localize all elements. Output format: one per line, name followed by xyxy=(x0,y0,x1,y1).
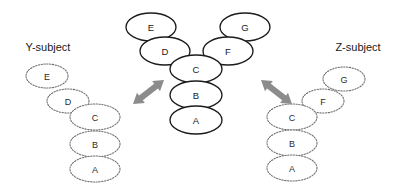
center-subject-group: EDGFCBA xyxy=(126,13,270,134)
left-subject-node-b: B xyxy=(70,131,120,157)
center-subject-node-label: F xyxy=(225,46,231,57)
left-subject-node-label: E xyxy=(44,72,50,82)
right-subject-node-label: A xyxy=(289,164,295,174)
right-subject-node-label: C xyxy=(289,113,296,123)
center-subject-node-label: A xyxy=(193,115,200,126)
center-subject-node-label: G xyxy=(241,22,248,33)
left-subject-node-label: D xyxy=(65,97,72,107)
right-subject-node-label: B xyxy=(289,139,295,149)
center-subject-node-label: E xyxy=(148,22,154,33)
center-subject-node-a: A xyxy=(170,106,222,134)
center-subject-node-label: D xyxy=(162,46,169,57)
center-subject-node-label: C xyxy=(193,64,200,75)
center-subject-node-b: B xyxy=(170,81,222,109)
left-subject-node-label: B xyxy=(92,140,98,150)
left-subject-node-e: E xyxy=(26,64,68,88)
left-subject-title: Y-subject xyxy=(26,41,71,53)
left-subject-node-c: C xyxy=(70,104,120,130)
left-subject-node-a: A xyxy=(70,156,120,182)
right-subject-node-g: G xyxy=(323,67,365,91)
left-subject-node-label: A xyxy=(92,165,98,175)
diagram-svg: EDCBA EDGFCBA GFCBA Y-subjectZ-subject xyxy=(0,0,404,191)
right-subject-title: Z-subject xyxy=(335,41,380,53)
left-subject-group: EDCBA xyxy=(26,64,120,182)
diagram-canvas: EDCBA EDGFCBA GFCBA Y-subjectZ-subject xyxy=(0,0,404,191)
right-subject-node-b: B xyxy=(267,130,317,156)
left-subject-node-label: C xyxy=(92,113,99,123)
right-subject-node-a: A xyxy=(267,155,317,181)
right-subject-group: GFCBA xyxy=(267,67,365,181)
right-subject-node-label: G xyxy=(340,75,347,85)
center-subject-node-c: C xyxy=(170,55,222,83)
center-subject-node-label: B xyxy=(193,90,199,101)
right-subject-node-label: F xyxy=(320,97,326,107)
left-double-arrow xyxy=(129,75,168,109)
right-subject-node-c: C xyxy=(267,104,317,130)
